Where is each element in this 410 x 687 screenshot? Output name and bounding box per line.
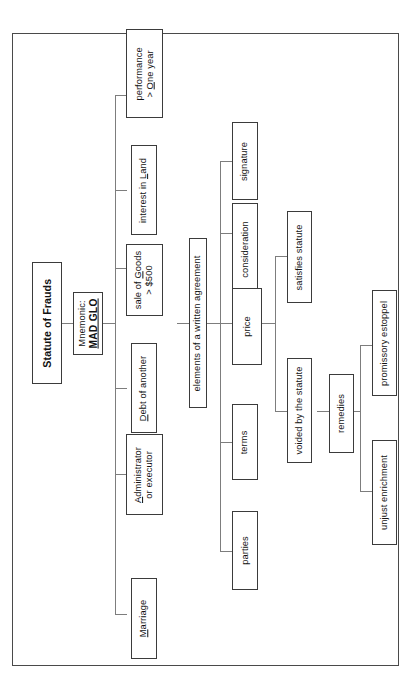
performance-line-1: performance (134, 47, 144, 100)
node-voided-by-the-statute[interactable]: voided by the statute (287, 358, 312, 463)
connector-stub-consideration (220, 233, 232, 234)
node-consideration[interactable]: consideration (232, 203, 258, 295)
node-satisfies-statute[interactable]: satisfies statute (287, 211, 312, 303)
node-label-promissory: promissory estoppel (379, 300, 390, 385)
node-label-price: price (242, 316, 253, 337)
administrator-line-2: or executor (145, 451, 155, 499)
goods-line-1: sale of Goods (134, 251, 144, 310)
connector-price-out (262, 323, 275, 324)
connector-stub-debt (115, 388, 127, 389)
node-administrator-or-executor[interactable]: Administrator or executor (126, 434, 163, 515)
node-statute-of-frauds[interactable]: Statute of Frauds (32, 262, 62, 384)
node-sale-of-goods[interactable]: sale of Goods > $500 (126, 244, 163, 316)
node-parties[interactable]: parties (232, 511, 258, 590)
mnemonic-value: MAD GLO (87, 298, 98, 348)
connector-elements-in (177, 323, 189, 324)
connector-stub-price (220, 323, 232, 324)
node-label-consideration: consideration (240, 221, 251, 278)
connector-elements-out (207, 323, 220, 324)
connector-mnemonic-out (103, 323, 115, 324)
node-label-marriage: Marriage (139, 600, 150, 638)
connector-mnemonic-spine (115, 95, 116, 614)
node-elements-of-written-agreement[interactable]: elements of a written agreement (189, 238, 207, 408)
node-price[interactable]: price (232, 288, 262, 365)
connector-stub-land (115, 190, 127, 191)
node-unjust-enrichment[interactable]: unjust enrichment (372, 440, 397, 545)
connector-stub-marriage (115, 614, 127, 615)
node-marriage[interactable]: Marriage (131, 578, 157, 659)
node-promissory-estoppel[interactable]: promissory estoppel (372, 290, 397, 396)
connector-voided-remedies (317, 411, 329, 412)
mnemonic-label: Mnemonic: (77, 300, 87, 346)
node-debt-of-another[interactable]: Debt of another (131, 343, 157, 433)
diagram-canvas: Statute of Frauds Mnemonic: MAD GLO perf… (0, 0, 410, 687)
connector-stub-promissory (360, 345, 372, 346)
node-label: Statute of Frauds (41, 279, 54, 368)
goods-line-2: > $500 (145, 265, 155, 294)
node-signature[interactable]: signature (232, 122, 258, 200)
node-interest-in-land[interactable]: interest in Land (131, 145, 157, 235)
connector-stub-signature (220, 161, 232, 162)
connector-root-mnemonic (62, 323, 73, 324)
node-label-terms: terms (240, 430, 251, 454)
node-label-satisfies: satisfies statute (294, 224, 305, 290)
node-terms[interactable]: terms (232, 404, 258, 480)
connector-elements-spine (220, 161, 221, 551)
node-performance-one-year[interactable]: performance > One year (126, 29, 163, 118)
node-mnemonic[interactable]: Mnemonic: MAD GLO (73, 292, 103, 355)
node-label-debt: Debt of another (139, 355, 150, 421)
connector-stub-voided (275, 411, 287, 412)
node-label-unjust: unjust enrichment (379, 455, 390, 530)
connector-stub-unjust (360, 491, 372, 492)
node-label-elements: elements of a written agreement (193, 255, 204, 391)
node-label-administrator: Administrator or executor (134, 446, 156, 502)
node-label-performance: performance > One year (134, 47, 156, 100)
connector-stub-terms (220, 442, 232, 443)
connector-stub-satisfies (275, 256, 287, 257)
node-label-land: interest in Land (139, 157, 150, 222)
node-label-signature: signature (240, 141, 251, 180)
node-remedies[interactable]: remedies (329, 374, 354, 453)
connector-stub-parties (220, 551, 232, 552)
node-label-mnemonic: Mnemonic: MAD GLO (77, 298, 100, 348)
node-label-voided: voided by the statute (294, 367, 305, 455)
node-label-goods: sale of Goods > $500 (134, 251, 156, 310)
node-label-parties: parties (240, 536, 251, 565)
connector-remedies-spine (360, 345, 361, 491)
node-label-remedies: remedies (336, 394, 347, 433)
connector-price-spine (275, 256, 276, 411)
administrator-line-1: Administrator (134, 446, 144, 502)
performance-line-2: > One year (145, 50, 155, 97)
